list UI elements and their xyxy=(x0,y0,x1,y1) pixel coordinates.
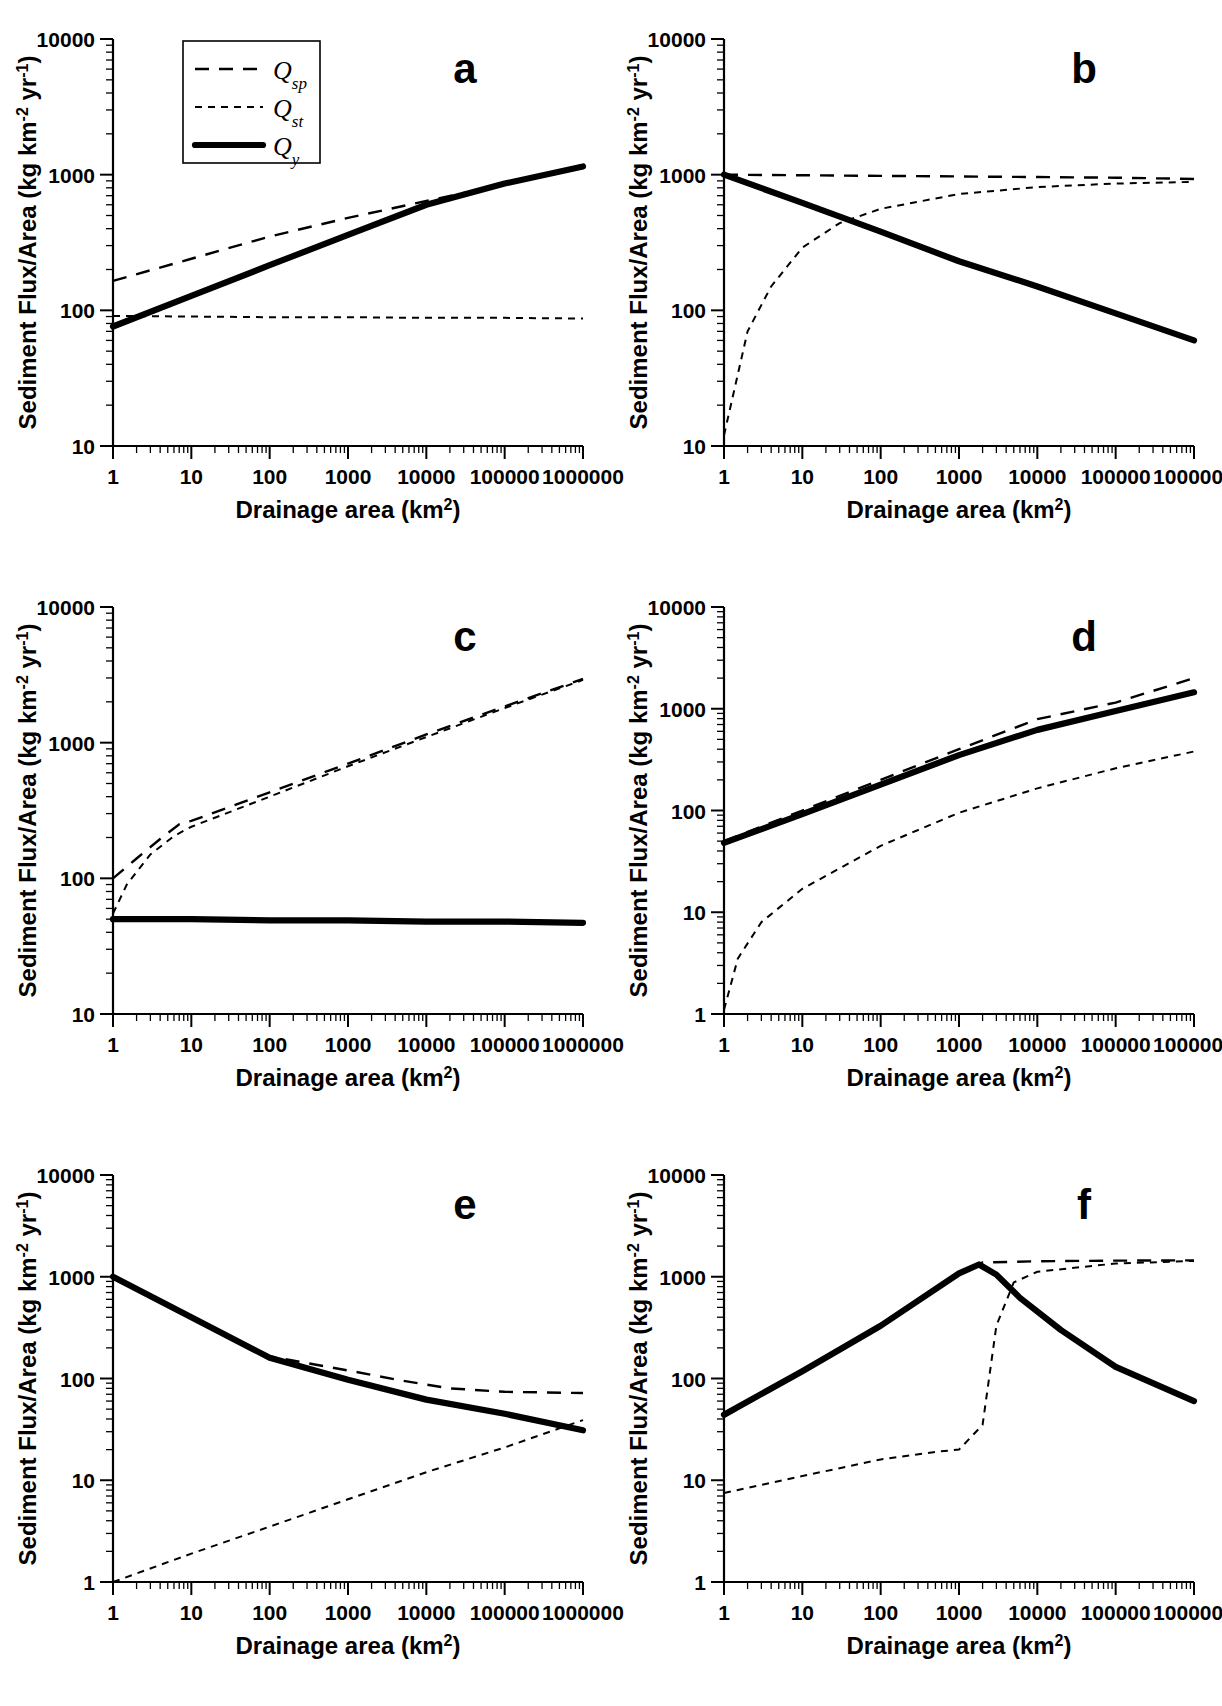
y-tick-label: 1000 xyxy=(659,1266,706,1289)
axis-lines xyxy=(113,607,583,1014)
svg-text:Drainage area (km2): Drainage area (km2) xyxy=(235,1064,460,1092)
x-tick-label: 10 xyxy=(791,465,814,488)
x-tick-label: 10 xyxy=(791,1033,814,1056)
y-tick-label: 100 xyxy=(60,1368,95,1391)
x-ticks xyxy=(113,446,583,459)
x-tick-label: 100 xyxy=(252,1033,287,1056)
y-ticks xyxy=(100,1175,113,1582)
y-tick-labels: 10100100010000 xyxy=(37,28,95,458)
series-qst xyxy=(113,1420,583,1582)
y-tick-label: 100 xyxy=(60,299,95,322)
x-tick-label: 1 xyxy=(107,465,119,488)
x-tick-label: 1 xyxy=(107,1601,119,1624)
x-tick-label: 1 xyxy=(718,1601,730,1624)
chart-panel-b: 1101001000100001000001000000101001000100… xyxy=(611,6,1222,574)
y-ticks xyxy=(711,39,724,446)
svg-text:Drainage area (km2): Drainage area (km2) xyxy=(846,1064,1071,1092)
x-axis-title: Drainage area (km2) xyxy=(846,496,1071,524)
x-tick-label: 1 xyxy=(107,1033,119,1056)
svg-text:Sediment Flux/Area (kg km-2 yr: Sediment Flux/Area (kg km-2 yr-1) xyxy=(625,624,653,998)
x-tick-label: 100000 xyxy=(470,1601,540,1624)
y-ticks xyxy=(711,607,724,1014)
svg-text:Sediment Flux/Area (kg km-2 yr: Sediment Flux/Area (kg km-2 yr-1) xyxy=(625,56,653,430)
x-tick-label: 10000 xyxy=(397,465,455,488)
x-tick-label: 10000 xyxy=(397,1601,455,1624)
x-tick-label: 10 xyxy=(180,1033,203,1056)
x-tick-label: 1000000 xyxy=(1153,465,1222,488)
svg-text:Sediment Flux/Area (kg km-2 yr: Sediment Flux/Area (kg km-2 yr-1) xyxy=(14,1192,42,1566)
x-tick-label: 1000 xyxy=(325,1033,372,1056)
x-tick-label: 1000 xyxy=(325,465,372,488)
svg-text:Sediment Flux/Area (kg km-2 yr: Sediment Flux/Area (kg km-2 yr-1) xyxy=(14,56,42,430)
y-tick-label: 100 xyxy=(671,1368,706,1391)
y-tick-label: 10 xyxy=(72,1003,95,1026)
series-qsp xyxy=(724,1260,1194,1417)
y-tick-labels: 10100100010000 xyxy=(648,28,706,458)
panel-tag-e: e xyxy=(453,1181,476,1228)
series-qy xyxy=(113,919,583,923)
x-tick-label: 100000 xyxy=(1081,1033,1151,1056)
x-axis-title: Drainage area (km2) xyxy=(846,1064,1071,1092)
panel-tag-c: c xyxy=(453,613,476,660)
x-tick-label: 1000 xyxy=(325,1601,372,1624)
x-tick-label: 10000 xyxy=(1008,465,1066,488)
chart-panel-d: 1101001000100001000001000000110100100010… xyxy=(611,574,1222,1142)
panel-tag-a: a xyxy=(453,45,477,92)
series-qsp xyxy=(113,679,583,878)
y-ticks xyxy=(100,39,113,446)
y-tick-label: 100 xyxy=(671,800,706,823)
y-axis-title: Sediment Flux/Area (kg km-2 yr-1) xyxy=(625,56,653,430)
chart-panel-c: 1101001000100001000001000000101001000100… xyxy=(0,574,611,1142)
series-qst xyxy=(113,680,583,914)
svg-text:Drainage area (km2): Drainage area (km2) xyxy=(235,1632,460,1660)
series-qy xyxy=(724,1264,1194,1414)
y-tick-label: 1 xyxy=(694,1571,706,1594)
x-tick-label: 1000000 xyxy=(1153,1033,1222,1056)
y-tick-label: 1000 xyxy=(48,732,95,755)
y-tick-label: 10000 xyxy=(37,28,95,51)
y-tick-label: 10 xyxy=(72,1469,95,1492)
y-axis-title: Sediment Flux/Area (kg km-2 yr-1) xyxy=(14,624,42,998)
x-tick-label: 100000 xyxy=(1081,465,1151,488)
series-qy xyxy=(113,166,583,326)
svg-text:Drainage area (km2): Drainage area (km2) xyxy=(846,1632,1071,1660)
x-tick-label: 10000 xyxy=(1008,1033,1066,1056)
x-axis-title: Drainage area (km2) xyxy=(235,496,460,524)
x-tick-labels: 1101001000100001000001000000 xyxy=(107,1033,624,1056)
y-axis-title: Sediment Flux/Area (kg km-2 yr-1) xyxy=(14,1192,42,1566)
y-tick-label: 1000 xyxy=(659,698,706,721)
x-ticks xyxy=(724,1582,1194,1595)
y-tick-label: 1000 xyxy=(659,164,706,187)
chart-panel-a: 1101001000100001000001000000101001000100… xyxy=(0,6,611,574)
x-tick-label: 1000 xyxy=(936,1033,983,1056)
y-tick-labels: 110100100010000 xyxy=(648,1164,707,1594)
x-tick-label: 1000 xyxy=(936,465,983,488)
chart-panel-e: 1101001000100001000001000000110100100010… xyxy=(0,1142,611,1706)
y-tick-label: 1000 xyxy=(48,1266,95,1289)
x-ticks xyxy=(113,1014,583,1027)
y-tick-label: 10 xyxy=(72,435,95,458)
series-qst xyxy=(724,182,1194,435)
y-tick-label: 1 xyxy=(694,1003,706,1026)
y-tick-label: 10 xyxy=(683,901,706,924)
x-tick-labels: 1101001000100001000001000000 xyxy=(718,465,1222,488)
x-tick-label: 100000 xyxy=(470,1033,540,1056)
y-tick-label: 10000 xyxy=(648,28,706,51)
y-tick-label: 1000 xyxy=(48,164,95,187)
series-qy xyxy=(113,1277,583,1431)
x-axis-title: Drainage area (km2) xyxy=(846,1632,1071,1660)
x-axis-title: Drainage area (km2) xyxy=(235,1632,460,1660)
series-qsp xyxy=(724,175,1194,179)
series-qst xyxy=(113,316,583,319)
y-tick-labels: 110100100010000 xyxy=(648,596,707,1026)
x-tick-labels: 1101001000100001000001000000 xyxy=(107,1601,624,1624)
y-ticks xyxy=(711,1175,724,1582)
x-tick-label: 100 xyxy=(863,1601,898,1624)
x-tick-label: 10 xyxy=(791,1601,814,1624)
x-tick-label: 10000 xyxy=(1008,1601,1066,1624)
panel-tag-f: f xyxy=(1077,1181,1092,1228)
x-tick-label: 100000 xyxy=(470,465,540,488)
series-qst xyxy=(724,752,1194,1010)
y-tick-label: 10000 xyxy=(37,596,95,619)
x-ticks xyxy=(113,1582,583,1595)
